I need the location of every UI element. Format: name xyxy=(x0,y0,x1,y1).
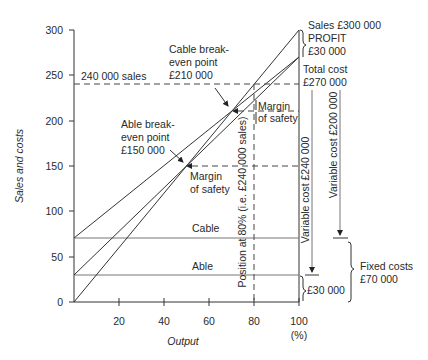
y-tick-label: 150 xyxy=(45,160,63,172)
cable-fixed-brace xyxy=(348,242,354,302)
able-margin-of-safety: Margin of safety xyxy=(190,170,230,195)
y-tick-label: 300 xyxy=(45,24,63,36)
y-tick-label: 50 xyxy=(51,251,63,263)
svg-text:Cable break-: Cable break- xyxy=(169,43,230,55)
x-tick-label: 40 xyxy=(158,315,170,327)
y-tick-label: 250 xyxy=(45,69,63,81)
y-ticks: 0 50 100 150 200 250 300 xyxy=(45,24,74,308)
profit-label: PROFIT xyxy=(308,32,347,44)
svg-text:£150 000: £150 000 xyxy=(121,144,165,156)
fixed-costs-label: Fixed costs xyxy=(360,260,413,272)
sales-240k-label: 240 000 sales xyxy=(81,70,146,82)
cable-margin-of-safety: Margin of safety xyxy=(256,100,298,124)
profit-value: £30 000 xyxy=(308,45,346,57)
position-80-label: Position at 80% (i.e. £240 000 sales) xyxy=(236,116,248,287)
svg-text:£210 000: £210 000 xyxy=(169,69,213,81)
able-label: Able xyxy=(192,260,213,272)
y-axis-title: Sales and costs xyxy=(13,128,25,203)
svg-text:of safety: of safety xyxy=(190,183,230,195)
able-fixed-brace xyxy=(300,276,306,301)
svg-text:even point: even point xyxy=(121,131,170,143)
x-tick-label: 80 xyxy=(248,315,260,327)
break-even-chart: 0 50 100 150 200 250 300 20 40 60 80 100… xyxy=(0,0,428,360)
sales-300k-label: Sales £300 000 xyxy=(308,19,381,31)
cable-break-even-annotation: Cable break- even point £210 000 xyxy=(169,43,230,106)
cable-label: Cable xyxy=(192,222,220,234)
x-tick-label: 60 xyxy=(203,315,215,327)
x-ticks: 20 40 60 80 100 (%) xyxy=(113,298,308,341)
x-axis-title: Output xyxy=(167,335,200,347)
variable-cost-200k-label: Variable cost £200 000 xyxy=(327,92,339,199)
svg-text:of safety: of safety xyxy=(258,112,298,124)
y-tick-label: 200 xyxy=(45,115,63,127)
fixed-30k-label: £30 000 xyxy=(307,284,345,296)
y-tick-label: 100 xyxy=(45,205,63,217)
total-cost-value: £270 000 xyxy=(303,76,347,88)
svg-text:Margin: Margin xyxy=(190,170,222,182)
x-tick-label: 20 xyxy=(113,315,125,327)
profit-brace xyxy=(300,30,306,57)
able-break-even-annotation: Able break- even point £150 000 xyxy=(121,118,183,162)
svg-text:Margin: Margin xyxy=(258,100,290,112)
y-tick-label: 0 xyxy=(57,296,63,308)
variable-cost-240k-label: Variable cost £240 000 xyxy=(299,137,311,244)
total-cost-label: Total cost xyxy=(303,63,347,75)
x-unit-label: (%) xyxy=(291,329,307,341)
svg-text:even point: even point xyxy=(169,56,218,68)
fixed-costs-value: £70 000 xyxy=(360,273,398,285)
x-tick-label: 100 xyxy=(290,315,308,327)
svg-text:Able break-: Able break- xyxy=(121,118,175,130)
